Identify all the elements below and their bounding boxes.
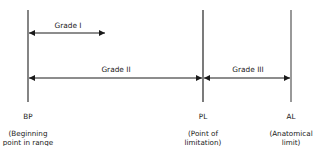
pl-description: (Point of limitation): [175, 130, 231, 146]
bp-abbr: BP: [0, 113, 56, 121]
al-abbr: AL: [261, 113, 321, 121]
bp-label: BP (Beginning point in range of motion): [0, 105, 56, 146]
al-label: AL (Anatomical limit): [261, 105, 321, 146]
grade-1-label: Grade I: [54, 21, 81, 30]
grade-3-label: Grade III: [232, 65, 263, 74]
bp-description: (Beginning point in range of motion): [0, 130, 56, 146]
pl-abbr: PL: [175, 113, 231, 121]
al-description: (Anatomical limit): [261, 130, 321, 146]
pl-label: PL (Point of limitation): [175, 105, 231, 146]
grade-2-label: Grade II: [101, 65, 130, 74]
